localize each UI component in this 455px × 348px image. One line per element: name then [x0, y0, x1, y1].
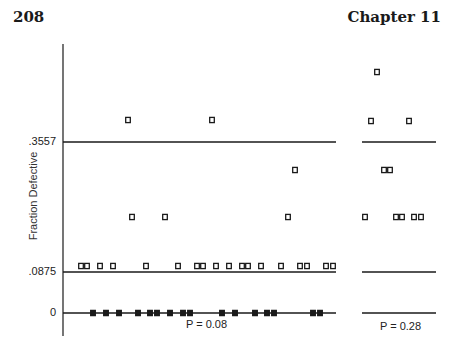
data-point: [104, 310, 109, 315]
data-point: [233, 310, 238, 315]
right-panel-p-label: P = 0.28: [380, 320, 421, 332]
data-point: [382, 167, 387, 172]
data-point: [240, 263, 245, 268]
data-point: [111, 263, 116, 268]
data-point: [155, 310, 160, 315]
left-panel-p-label: P = 0.08: [186, 318, 227, 330]
data-point: [148, 310, 153, 315]
data-point: [293, 167, 298, 172]
data-point: [195, 263, 200, 268]
data-point: [369, 118, 374, 123]
data-point: [188, 310, 193, 315]
data-point: [98, 263, 103, 268]
data-point: [144, 263, 149, 268]
data-point: [363, 214, 368, 219]
data-point: [126, 117, 131, 122]
data-point: [286, 214, 291, 219]
data-point: [265, 310, 270, 315]
data-point: [324, 263, 329, 268]
data-point: [176, 263, 181, 268]
data-point: [259, 263, 264, 268]
data-point: [136, 310, 141, 315]
data-point: [210, 117, 215, 122]
data-point: [168, 310, 173, 315]
data-point: [400, 214, 405, 219]
data-point: [79, 263, 84, 268]
data-point: [331, 263, 336, 268]
data-point: [388, 167, 393, 172]
data-point: [181, 310, 186, 315]
data-point: [375, 69, 380, 74]
data-point: [412, 214, 417, 219]
data-point: [227, 263, 232, 268]
data-point: [253, 310, 258, 315]
data-point: [163, 214, 168, 219]
data-point: [85, 263, 90, 268]
data-point: [201, 263, 206, 268]
data-point: [214, 263, 219, 268]
control-chart: [0, 0, 455, 348]
data-point: [272, 310, 277, 315]
data-point: [91, 310, 96, 315]
data-point: [419, 214, 424, 219]
data-point: [394, 214, 399, 219]
data-point: [220, 310, 225, 315]
data-point: [117, 310, 122, 315]
data-point: [305, 263, 310, 268]
data-point: [279, 263, 284, 268]
data-point: [298, 263, 303, 268]
data-point: [311, 310, 316, 315]
data-point: [130, 214, 135, 219]
data-point: [318, 310, 323, 315]
data-point: [407, 118, 412, 123]
data-point: [246, 263, 251, 268]
